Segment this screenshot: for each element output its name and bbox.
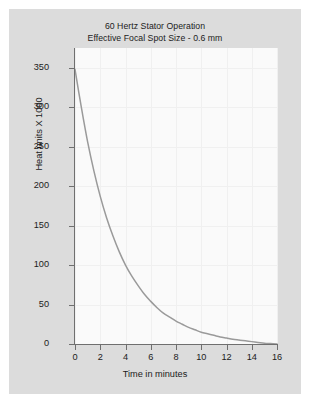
y-axis-tick: [69, 265, 74, 266]
x-axis-tick: [100, 345, 101, 350]
chart-panel: 60 Hertz Stator Operation Effective Foca…: [9, 9, 301, 394]
y-axis-tick-label: 0: [9, 338, 49, 348]
x-axis-tick-label: 2: [88, 352, 112, 362]
x-axis-tick-label: 16: [265, 352, 289, 362]
chart-figure: 60 Hertz Stator Operation Effective Foca…: [0, 0, 310, 403]
y-axis-tick: [69, 344, 74, 345]
chart-subtitle: Effective Focal Spot Size - 0.6 mm: [9, 33, 301, 45]
y-axis-tick-label: 50: [9, 299, 49, 309]
x-axis-tick: [227, 345, 228, 350]
y-axis-tick: [69, 226, 74, 227]
cooling-curve-svg: [75, 48, 277, 344]
x-axis-tick: [75, 345, 76, 350]
y-axis-tick: [69, 186, 74, 187]
x-axis-tick-label: 6: [139, 352, 163, 362]
plot-area: [75, 48, 277, 344]
y-axis-line: [74, 48, 75, 345]
x-axis-tick: [126, 345, 127, 350]
y-axis-tick-label: 100: [9, 259, 49, 269]
cooling-curve-line: [75, 69, 277, 344]
x-axis-tick: [176, 345, 177, 350]
y-axis-label: Heat units X 1000: [34, 34, 44, 234]
x-axis-tick-label: 10: [189, 352, 213, 362]
grid-line-vertical: [277, 48, 278, 344]
x-axis-tick: [151, 345, 152, 350]
x-axis-tick-label: 14: [240, 352, 264, 362]
x-axis-tick-label: 4: [114, 352, 138, 362]
y-axis-tick: [69, 68, 74, 69]
y-axis-tick: [69, 107, 74, 108]
x-axis-tick-label: 12: [215, 352, 239, 362]
x-axis-tick: [252, 345, 253, 350]
x-axis-tick: [201, 345, 202, 350]
x-axis-label: Time in minutes: [9, 369, 301, 379]
x-axis-tick-label: 0: [63, 352, 87, 362]
chart-title: 60 Hertz Stator Operation: [9, 21, 301, 33]
x-axis-tick-label: 8: [164, 352, 188, 362]
x-axis-tick: [277, 345, 278, 350]
y-axis-tick: [69, 305, 74, 306]
y-axis-tick: [69, 147, 74, 148]
chart-title-block: 60 Hertz Stator Operation Effective Foca…: [9, 21, 301, 44]
